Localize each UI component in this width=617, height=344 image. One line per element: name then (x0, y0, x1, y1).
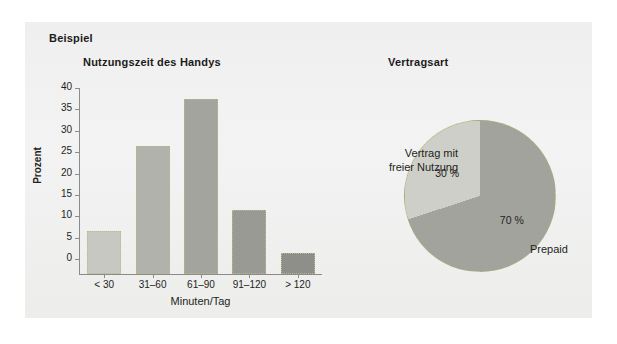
y-axis-tick-mark (75, 195, 79, 196)
x-axis-tick-mark (153, 275, 154, 278)
y-axis-tick-mark (75, 174, 79, 175)
bar-chart: 0510152025303540 Prozent < 3031–6061–909… (25, 82, 325, 302)
bar-series (80, 88, 322, 274)
y-axis-tick-mark (75, 259, 79, 260)
y-axis-tick-label: 0 (66, 252, 72, 263)
x-axis-tick-mark (104, 275, 105, 278)
y-axis-tick-label: 20 (61, 167, 72, 178)
y-axis-label: Prozent (32, 121, 43, 211)
x-axis-tick-mark (249, 275, 250, 278)
bar-4 (232, 210, 266, 274)
y-axis-tick: 35 (25, 109, 79, 110)
x-axis-tick-mark (298, 275, 299, 278)
y-axis-tick-mark (75, 216, 79, 217)
y-axis-tick: 5 (25, 238, 79, 239)
y-axis-tick-label: 5 (66, 231, 72, 242)
y-axis-tick-mark (75, 238, 79, 239)
bar-chart-title: Nutzungszeit des Handys (83, 56, 221, 68)
y-axis-tick-label: 35 (61, 102, 72, 113)
x-axis-tick-mark (201, 275, 202, 278)
pie-slice-label-70: 70 % (500, 214, 524, 226)
bar-1 (87, 231, 121, 274)
y-axis-tick-mark (75, 109, 79, 110)
bar-3 (184, 99, 218, 274)
pie-label-vertrag-line1: Vertrag mit (358, 146, 458, 160)
pie-chart: 30 % 70 % Vertrag mit freier Nutzung Pre… (330, 70, 600, 300)
pie-label-vertrag-line2: freier Nutzung (358, 160, 458, 174)
y-axis-tick-label: 25 (61, 145, 72, 156)
y-axis-tick-mark (75, 152, 79, 153)
y-axis-tick-label: 15 (61, 188, 72, 199)
y-axis-tick-label: 40 (61, 81, 72, 92)
pie-chart-title: Vertragsart (388, 56, 448, 68)
y-axis-tick: 40 (25, 88, 79, 89)
pie-label-vertrag: Vertrag mit freier Nutzung (358, 146, 458, 174)
bar-5 (281, 253, 315, 274)
y-axis-tick: 0 (25, 259, 79, 260)
pie-label-prepaid: Prepaid (530, 242, 568, 256)
y-axis-tick-mark (75, 88, 79, 89)
y-axis-tick-mark (75, 131, 79, 132)
x-axis-tick-label: > 120 (263, 279, 333, 290)
y-axis-tick-label: 10 (61, 209, 72, 220)
bar-2 (136, 146, 170, 274)
example-heading: Beispiel (49, 32, 93, 44)
x-axis-label: Minuten/Tag (79, 295, 322, 307)
y-axis-tick: 10 (25, 216, 79, 217)
y-axis-tick-label: 30 (61, 124, 72, 135)
